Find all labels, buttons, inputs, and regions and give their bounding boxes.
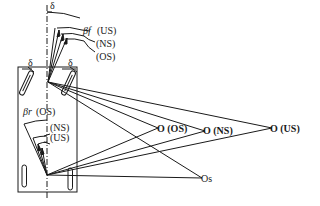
delta-arc-top [47, 12, 80, 18]
center-os-label: O (OS) [157, 123, 187, 135]
rear-radius-lines [47, 128, 272, 178]
front-label-ns: (NS) [96, 38, 115, 50]
rear-right-wheel [68, 168, 73, 190]
delta-label-right: δ [68, 57, 73, 68]
center-ns-label: O (NS) [203, 125, 233, 137]
front-label-os: (OS) [96, 51, 115, 63]
rear-velocity-vectors [24, 124, 47, 175]
rear-label-us: (US) [50, 132, 69, 144]
delta-label-left: δ [28, 57, 33, 68]
beta-front-label: βf [82, 25, 92, 36]
front-left-wheel [19, 70, 35, 96]
front-velocity-vectors [48, 28, 67, 82]
steering-diagram: δ δ δ βf (US) (NS) (OS) βr (OS) (NS) (US… [0, 0, 320, 206]
front-label-us: (US) [97, 25, 116, 37]
center-us-label: O (US) [270, 123, 300, 135]
center-s-label: Os [201, 173, 212, 184]
front-right-wheel [61, 70, 77, 96]
rear-label-os: (OS) [36, 106, 55, 118]
beta-rear-label: βr [22, 106, 32, 117]
rear-left-wheel [22, 165, 27, 187]
delta-label-top: δ [50, 0, 55, 11]
